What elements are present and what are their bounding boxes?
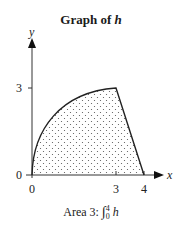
x-axis-arrow-icon: [154, 171, 164, 179]
caption-prefix: Area 3:: [63, 205, 102, 219]
y-axis-arrow-icon: [28, 38, 36, 48]
graph-plot: y x 3 0 0 3 4: [0, 0, 182, 233]
x-tick-label-4: 4: [141, 182, 147, 196]
x-tick-label-3: 3: [113, 182, 119, 196]
integral-lower-bound: 0: [106, 212, 110, 221]
shaded-area-region: [32, 88, 144, 175]
x-axis-label: x: [166, 168, 173, 182]
y-tick-label-3: 3: [16, 81, 22, 95]
integral-upper-bound: 4: [106, 204, 110, 213]
area-caption: Area 3: ∫04 h: [0, 204, 182, 221]
integrand: h: [113, 205, 119, 219]
y-axis-label: y: [28, 25, 35, 39]
y-tick-label-0: 0: [16, 168, 22, 182]
x-tick-label-0: 0: [29, 182, 35, 196]
